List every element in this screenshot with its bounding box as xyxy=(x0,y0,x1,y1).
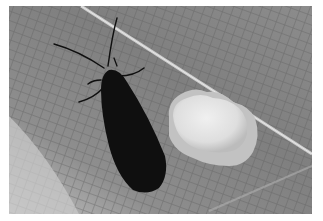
photo xyxy=(9,6,312,214)
moth-and-eggs-photo xyxy=(9,6,312,214)
